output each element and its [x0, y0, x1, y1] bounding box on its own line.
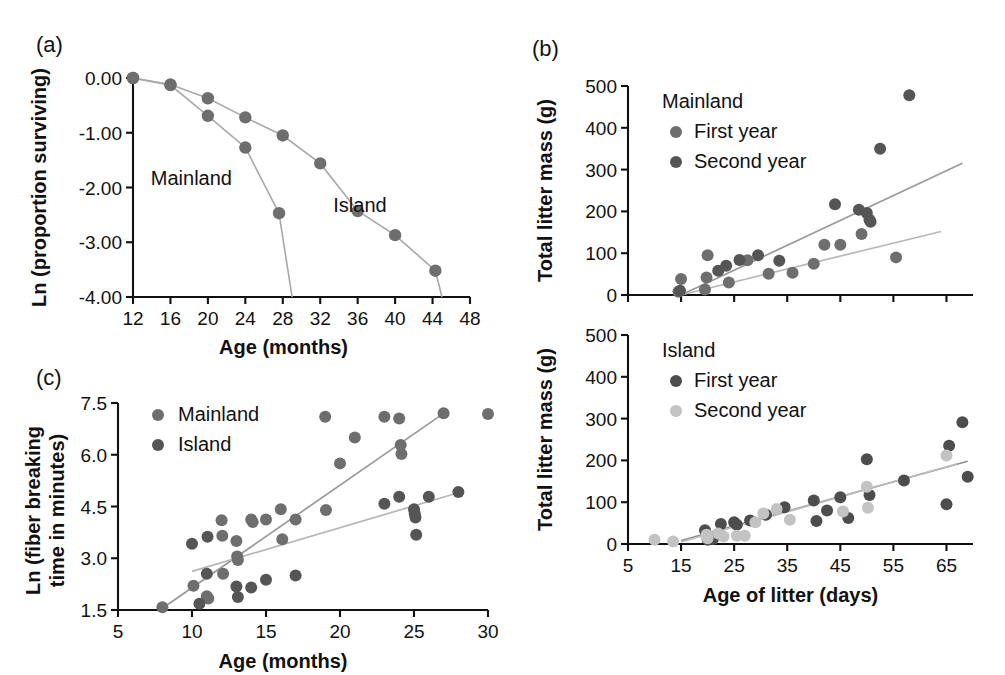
y-tick-label: 100	[585, 492, 617, 513]
data-point	[216, 514, 228, 526]
x-axis-title: Age (months)	[219, 650, 348, 672]
data-point	[861, 453, 873, 465]
data-point	[193, 598, 205, 610]
x-tick-label: 44	[422, 308, 444, 329]
data-point	[874, 143, 886, 155]
x-tick-label: 28	[272, 308, 293, 329]
data-point	[940, 449, 952, 461]
x-tick-label: 65	[936, 555, 957, 576]
data-point	[821, 505, 833, 517]
data-point	[187, 580, 199, 592]
panel-c-plot: 1.53.04.56.07.551015202530Age (months)Ma…	[0, 355, 520, 675]
x-axis-title: Age of litter (days)	[703, 584, 879, 606]
x-tick-label: 10	[181, 621, 202, 642]
legend-entry-1: Second year	[694, 150, 807, 172]
data-point	[290, 514, 302, 526]
y-axis-title: Total litter mass (g)	[534, 348, 556, 531]
series-annotation-1: Island	[333, 194, 386, 216]
x-tick-label: 15	[671, 555, 692, 576]
y-tick-label: 100	[585, 243, 617, 264]
panel-b-bottom-axes: 01002003004005005152535455565Total litte…	[534, 325, 974, 606]
data-point	[771, 503, 783, 515]
data-point	[862, 502, 874, 514]
data-point	[731, 519, 743, 531]
y-axis-title: Total litter mass (g)	[534, 99, 556, 282]
x-tick-label: 55	[883, 555, 904, 576]
data-point	[702, 249, 714, 261]
data-point	[202, 92, 214, 104]
x-tick-label: 25	[724, 555, 745, 576]
legend-marker-0	[670, 126, 682, 138]
y-tick-label: -4.00	[79, 287, 122, 308]
data-point	[423, 491, 435, 503]
data-point	[452, 486, 464, 498]
y-tick-label: 1.5	[81, 600, 107, 621]
panel-c: (c) 1.53.04.56.07.551015202530Age (month…	[0, 355, 520, 675]
y-tick-label: 6.0	[81, 445, 107, 466]
data-point	[277, 129, 289, 141]
x-tick-label: 35	[777, 555, 798, 576]
data-point	[757, 507, 769, 519]
y-tick-label: 300	[585, 160, 617, 181]
data-point	[245, 582, 257, 594]
data-point	[393, 491, 405, 503]
data-point	[260, 514, 272, 526]
y-tick-label: 3.0	[81, 548, 107, 569]
x-tick-label: 40	[385, 308, 406, 329]
data-point	[856, 228, 868, 240]
y-axis-title-line1: Ln (fiber breaking	[22, 426, 44, 595]
panel-a: (a) 0.00-1.00-2.00-3.00-4.00121620242832…	[0, 0, 520, 360]
data-point	[834, 239, 846, 251]
data-point	[674, 285, 686, 297]
y-tick-label: 300	[585, 409, 617, 430]
data-point	[275, 503, 287, 515]
data-point	[201, 568, 213, 580]
x-tick-label: 24	[235, 308, 257, 329]
data-point	[699, 284, 711, 296]
data-point	[890, 251, 902, 263]
data-point	[378, 411, 390, 423]
data-point	[314, 157, 326, 169]
data-point	[395, 448, 407, 460]
data-point	[393, 413, 405, 425]
y-tick-label: -2.00	[79, 178, 122, 199]
x-tick-label: 32	[310, 308, 331, 329]
x-tick-label: 48	[459, 308, 480, 329]
data-point	[940, 498, 952, 510]
data-point	[247, 516, 259, 528]
y-tick-label: 0	[606, 534, 617, 555]
legend-marker-0	[152, 409, 164, 421]
legend-entry-0: Mainland	[178, 403, 259, 425]
x-tick-label: 30	[477, 621, 498, 642]
data-point	[186, 538, 198, 550]
legend-title: Mainland	[662, 90, 743, 112]
x-tick-label: 20	[329, 621, 350, 642]
data-point	[273, 207, 285, 219]
data-point	[739, 530, 751, 542]
data-point	[239, 141, 251, 153]
data-point	[482, 408, 494, 420]
legend-entry-1: Second year	[694, 399, 807, 421]
panel-a-axes: 0.00-1.00-2.00-3.00-4.001216202428323640…	[28, 68, 481, 358]
data-point	[409, 512, 421, 524]
data-point	[903, 89, 915, 101]
data-point	[718, 530, 730, 542]
data-point	[239, 111, 251, 123]
x-tick-label: 20	[197, 308, 218, 329]
y-tick-label: 400	[585, 367, 617, 388]
legend-marker-1	[152, 439, 164, 451]
data-point	[675, 273, 687, 285]
data-point	[438, 407, 450, 419]
data-point	[410, 529, 422, 541]
data-point	[127, 72, 139, 84]
y-axis-title: Ln (proportion surviving)	[28, 68, 50, 307]
y-tick-label: 0	[606, 285, 617, 306]
data-point	[349, 432, 361, 444]
data-point	[702, 532, 714, 544]
series-annotation-0: Mainland	[151, 167, 232, 189]
data-point	[808, 495, 820, 507]
panel-b-top-axes: 0100200300400500Total litter mass (g)Mai…	[534, 76, 973, 306]
data-point	[667, 535, 679, 547]
data-point	[962, 471, 974, 483]
y-tick-label: 0.00	[85, 68, 122, 89]
